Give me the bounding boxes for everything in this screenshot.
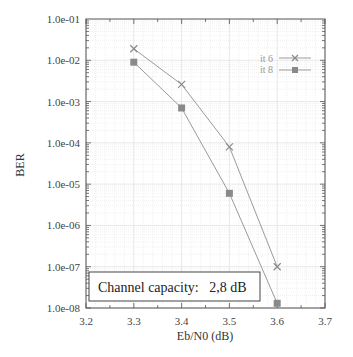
x-tick-label: 3.3 — [127, 315, 141, 327]
square-marker-icon — [130, 59, 137, 66]
annotation-text: Channel capacity: 2,8 dB — [98, 280, 247, 295]
y-tick-label: 1.0e-06 — [47, 219, 81, 231]
plot-frame — [86, 19, 325, 308]
legend-label-it6: it 6 — [260, 53, 273, 64]
x-tick-label: 3.6 — [270, 315, 284, 327]
y-axis-label: BER — [13, 153, 27, 176]
square-marker-icon — [226, 190, 233, 197]
y-tick-label: 1.0e-01 — [47, 13, 80, 25]
ber-chart: 1.0e-011.0e-021.0e-031.0e-041.0e-051.0e-… — [0, 0, 353, 357]
y-tick-label: 1.0e-02 — [47, 54, 80, 66]
x-tick-label: 3.2 — [79, 315, 93, 327]
annotation-box: Channel capacity: 2,8 dB — [89, 272, 260, 301]
x-tick-label: 3.5 — [223, 315, 237, 327]
y-tick-label: 1.0e-08 — [47, 302, 81, 314]
y-tick-labels: 1.0e-011.0e-021.0e-031.0e-041.0e-051.0e-… — [47, 13, 81, 314]
x-tick-label: 3.7 — [318, 315, 332, 327]
x-tick-labels: 3.23.33.43.53.63.7 — [79, 315, 332, 327]
y-tick-label: 1.0e-03 — [47, 96, 81, 108]
legend-label-it8: it 8 — [260, 64, 273, 75]
square-marker-icon — [274, 300, 281, 307]
square-marker-icon — [292, 67, 298, 73]
square-marker-icon — [178, 104, 185, 111]
legend: it 6 it 8 — [260, 53, 311, 75]
y-tick-label: 1.0e-05 — [47, 178, 81, 190]
y-tick-label: 1.0e-04 — [47, 137, 81, 149]
axis-ticks — [86, 19, 325, 308]
x-tick-label: 3.4 — [175, 315, 189, 327]
y-tick-label: 1.0e-07 — [47, 261, 81, 273]
x-axis-label: Eb/N0 (dB) — [177, 329, 233, 343]
grid — [86, 19, 325, 308]
